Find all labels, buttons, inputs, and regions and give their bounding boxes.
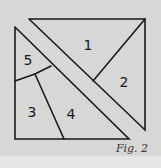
divider-1-2 (93, 19, 145, 81)
divider-3-4 (35, 74, 64, 139)
piece-label-2: 2 (120, 74, 129, 90)
figure-caption: Fig. 2 (115, 142, 148, 155)
piece-label-3: 3 (28, 104, 37, 120)
dissection-diagram: 1 2 3 4 5 Fig. 2 (0, 0, 161, 168)
divider-5 (15, 66, 51, 81)
lower-triangle-outline (15, 27, 129, 139)
piece-label-5: 5 (24, 52, 33, 68)
piece-label-4: 4 (67, 106, 76, 122)
piece-label-1: 1 (84, 37, 93, 53)
